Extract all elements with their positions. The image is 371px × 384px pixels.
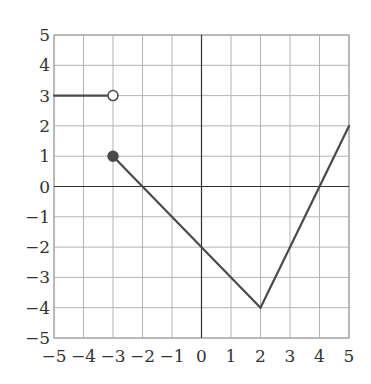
y-tick-label: 0: [39, 177, 50, 197]
y-tick-label: −2: [25, 237, 50, 257]
y-tick-label: 1: [39, 146, 50, 166]
x-axis-tick-labels: −5−4−3−2−1012345: [41, 346, 354, 366]
open-circle-marker: [108, 91, 118, 101]
y-tick-label: −1: [25, 207, 50, 227]
y-tick-label: −4: [25, 298, 50, 318]
x-tick-label: 3: [285, 346, 296, 366]
piece-2-line: [113, 156, 261, 308]
x-tick-label: 4: [314, 346, 325, 366]
x-tick-label: −1: [159, 346, 184, 366]
y-tick-label: −3: [25, 267, 50, 287]
x-tick-label: −4: [71, 346, 96, 366]
y-tick-label: 2: [39, 116, 50, 136]
x-tick-label: −2: [130, 346, 155, 366]
y-axis-tick-labels: −5−4−3−2−1012345: [25, 25, 50, 348]
axes: [54, 35, 349, 338]
y-tick-label: −5: [25, 328, 50, 348]
x-tick-label: 5: [344, 346, 355, 366]
y-tick-label: 4: [39, 55, 50, 75]
x-tick-label: 0: [196, 346, 207, 366]
y-tick-label: 5: [39, 25, 50, 45]
x-tick-label: −5: [41, 346, 66, 366]
piecewise-function-chart: −5−4−3−2−1012345 −5−4−3−2−1012345: [0, 0, 371, 384]
x-tick-label: 2: [255, 346, 266, 366]
y-tick-label: 3: [39, 86, 50, 106]
closed-circle-marker: [108, 151, 118, 161]
x-tick-label: −3: [100, 346, 125, 366]
x-tick-label: 1: [226, 346, 237, 366]
